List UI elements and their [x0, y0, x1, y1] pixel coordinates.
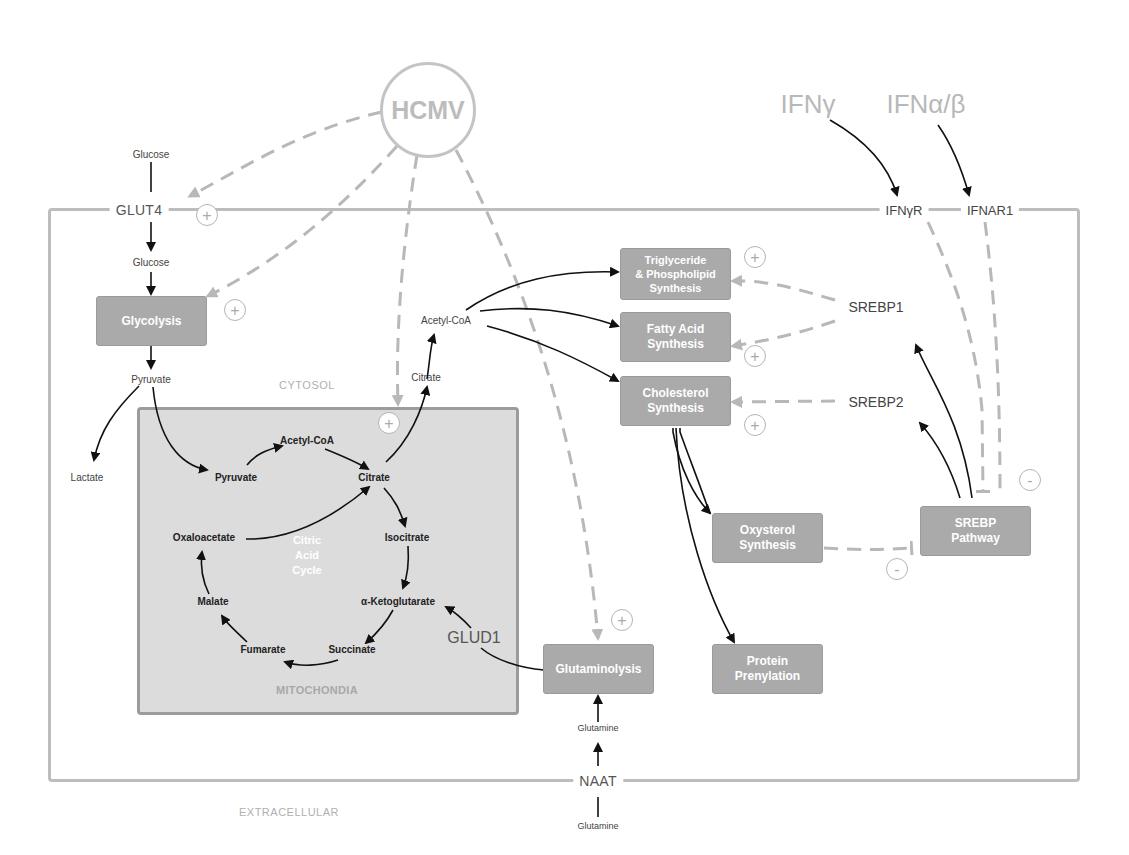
- glucose-extracellular: Glucose: [133, 149, 170, 160]
- ifn-gamma-label: IFNγ: [781, 89, 836, 120]
- pyruvate-cytosol: Pyruvate: [131, 374, 170, 385]
- chol-line2: Synthesis: [647, 401, 704, 416]
- plus-sign-glycolysis: +: [224, 299, 246, 321]
- citric-acid-cycle-title: Citric Acid Cycle: [292, 533, 321, 578]
- srebp1-label: SREBP1: [848, 299, 903, 315]
- tg-line3: Synthesis: [650, 281, 702, 295]
- plus-sign-citrate: +: [378, 412, 400, 434]
- tca-fumarate: Fumarate: [240, 644, 285, 655]
- glutamine-extracellular: Glutamine: [577, 821, 618, 831]
- minus-sign-ifn: -: [1019, 469, 1041, 491]
- glud1-enzyme: GLUD1: [447, 629, 500, 647]
- glutaminolysis-box: Glutaminolysis: [543, 644, 654, 694]
- triglyceride-phospholipid-synthesis-box: Triglyceride & Phospholipid Synthesis: [620, 248, 731, 300]
- glutamine-intracellular: Glutamine: [577, 723, 618, 733]
- plus-sign-glut4: +: [196, 204, 218, 226]
- fatty-acid-synthesis-box: Fatty Acid Synthesis: [620, 312, 731, 362]
- glucose-intracellular: Glucose: [133, 257, 170, 268]
- extracellular-label: EXTRACELLULAR: [239, 806, 339, 818]
- fa-line2: Synthesis: [647, 337, 704, 352]
- tca-citrate: Citrate: [358, 472, 390, 483]
- tca-pyruvate: Pyruvate: [215, 472, 257, 483]
- tca-oxaloacetate: Oxaloacetate: [173, 532, 235, 543]
- plus-sign-triglyceride: +: [744, 246, 766, 268]
- plus-sign-cholesterol: +: [744, 414, 766, 436]
- lactate: Lactate: [71, 472, 104, 483]
- minus-sign-oxysterol: -: [886, 558, 908, 580]
- plus-sign-fatty-acid: +: [744, 345, 766, 367]
- citrate-cytosol: Citrate: [411, 372, 440, 383]
- cytosol-label: CYTOSOL: [279, 379, 335, 391]
- cycle-title-line3: Cycle: [292, 563, 321, 578]
- mitochondria-label: MITOCHONDIA: [276, 684, 358, 696]
- ifnar1-receptor: IFNAR1: [961, 203, 1019, 218]
- tca-alpha-ketoglutarate: α-Ketoglutarate: [361, 596, 435, 607]
- tg-line1: Triglyceride: [645, 253, 707, 267]
- chol-line1: Cholesterol: [642, 386, 708, 401]
- cholesterol-synthesis-box: Cholesterol Synthesis: [620, 376, 731, 426]
- srebp-line1: SREBP: [955, 516, 996, 531]
- glycolysis-label: Glycolysis: [121, 314, 181, 329]
- srebp-pathway-box: SREBP Pathway: [920, 506, 1031, 556]
- acetyl-coa-cytosol: Acetyl-CoA: [421, 315, 471, 326]
- naat-transporter: NAAT: [573, 773, 623, 789]
- tg-line2: & Phospholipid: [635, 267, 716, 281]
- cycle-title-line2: Acid: [292, 548, 321, 563]
- srebp2-label: SREBP2: [848, 394, 903, 410]
- tca-malate: Malate: [197, 596, 228, 607]
- glutaminolysis-label: Glutaminolysis: [555, 662, 641, 677]
- pathway-arrows: [0, 0, 1129, 855]
- tca-succinate: Succinate: [328, 644, 375, 655]
- oxysterol-synthesis-box: Oxysterol Synthesis: [712, 513, 823, 563]
- hcmv-virus-node: HCMV: [380, 62, 476, 158]
- glut4-receptor: GLUT4: [110, 202, 169, 218]
- srebp-line2: Pathway: [951, 531, 1000, 546]
- oxy-line1: Oxysterol: [740, 523, 795, 538]
- cycle-title-line1: Citric: [292, 533, 321, 548]
- oxy-line2: Synthesis: [739, 538, 796, 553]
- tca-acetyl-coa: Acetyl-CoA: [280, 435, 334, 446]
- hcmv-label: HCMV: [391, 96, 465, 125]
- plus-sign-glutaminolysis: +: [611, 609, 633, 631]
- protein-prenylation-box: Protein Prenylation: [712, 644, 823, 694]
- glycolysis-box: Glycolysis: [96, 296, 207, 346]
- tca-isocitrate: Isocitrate: [385, 532, 429, 543]
- ifn-alpha-beta-label: IFNα/β: [886, 89, 965, 120]
- ifngr-receptor: IFNγR: [880, 203, 929, 218]
- fa-line1: Fatty Acid: [647, 322, 705, 337]
- prenyl-line1: Protein: [747, 654, 788, 669]
- prenyl-line2: Prenylation: [735, 669, 800, 684]
